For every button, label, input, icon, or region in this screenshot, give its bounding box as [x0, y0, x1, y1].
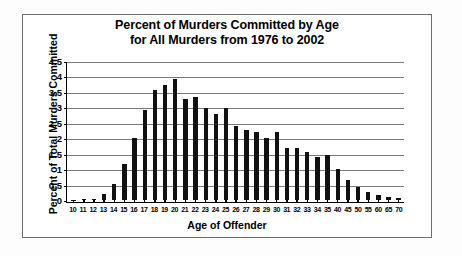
x-axis-tick-mark — [134, 200, 135, 203]
bar — [163, 85, 167, 200]
x-axis-title: Age of Offender — [22, 219, 432, 231]
bar — [254, 132, 258, 201]
bar-column — [353, 62, 363, 200]
x-axis-tick-label: 21 — [180, 206, 190, 213]
x-axis-tick-label: 10 — [68, 206, 78, 213]
bar-column — [79, 62, 89, 200]
bar — [153, 90, 157, 201]
bar — [224, 108, 228, 201]
x-axis-tick-label: 25 — [220, 206, 230, 213]
bar — [346, 180, 350, 200]
bar-column — [302, 62, 312, 200]
x-axis-tick-mark — [246, 200, 247, 203]
x-axis-tick-mark — [347, 200, 348, 203]
x-axis-tick-mark — [235, 200, 236, 203]
y-axis-tick-mark — [64, 170, 67, 171]
x-axis-tick-mark — [175, 200, 176, 203]
bar-column — [150, 62, 160, 200]
bar — [244, 130, 248, 200]
x-axis-tick-label: 60 — [373, 206, 383, 213]
x-axis-tick-mark — [205, 200, 206, 203]
bar — [264, 138, 268, 201]
bar-column — [69, 62, 79, 200]
x-axis-tick-label: 20 — [169, 206, 179, 213]
x-axis-tick-mark — [256, 200, 257, 203]
bar-column — [272, 62, 282, 200]
bar-column — [140, 62, 150, 200]
bar-column — [211, 62, 221, 200]
bar-column — [221, 62, 231, 200]
bar — [173, 79, 177, 201]
chart-title: Percent of Murders Committed by Age for … — [22, 18, 432, 48]
y-axis-tick-mark — [64, 186, 67, 187]
bar-column — [262, 62, 272, 200]
bar-column — [282, 62, 292, 200]
x-axis-tick-mark — [144, 200, 145, 203]
x-axis-tick-mark — [114, 200, 115, 203]
x-axis-tick-label: 18 — [149, 206, 159, 213]
bar — [214, 114, 218, 201]
bar — [305, 152, 309, 200]
x-axis-tick-label: 32 — [292, 206, 302, 213]
bar-column — [160, 62, 170, 200]
x-axis-tick-label: 23 — [200, 206, 210, 213]
x-axis-tick-label: 13 — [98, 206, 108, 213]
bar-column — [363, 62, 373, 200]
x-axis-tick-label: 12 — [88, 206, 98, 213]
y-axis-tick-mark — [64, 77, 67, 78]
x-axis-tick-mark — [327, 200, 328, 203]
bar — [285, 148, 289, 200]
bar-column — [333, 62, 343, 200]
x-axis-tick-mark — [276, 200, 277, 203]
x-axis-tick-label: 31 — [282, 206, 292, 213]
x-axis-tick-label: 26 — [231, 206, 241, 213]
x-axis-tick-mark — [154, 200, 155, 203]
x-axis-tick-mark — [225, 200, 226, 203]
bar — [356, 187, 360, 201]
x-axis-tick-mark — [357, 200, 358, 203]
x-axis-tick-mark — [307, 200, 308, 203]
bar — [234, 126, 238, 200]
x-axis-tick-label: 70 — [394, 206, 404, 213]
bar — [295, 148, 299, 200]
x-axis-tick-label: 17 — [139, 206, 149, 213]
x-axis-tick-mark — [317, 200, 318, 203]
bar-column — [343, 62, 353, 200]
x-axis-tick-mark — [185, 200, 186, 203]
bar — [336, 169, 340, 201]
bar — [204, 108, 208, 200]
bar — [132, 138, 136, 201]
x-axis-tick-mark — [286, 200, 287, 203]
y-axis-tick-mark — [64, 155, 67, 156]
x-axis-tick-label: 19 — [159, 206, 169, 213]
x-axis-tick-label: 22 — [190, 206, 200, 213]
bar — [193, 97, 197, 200]
x-axis-tick-label: 35 — [322, 206, 332, 213]
bar-column — [292, 62, 302, 200]
bar-column — [241, 62, 251, 200]
bar — [183, 99, 187, 200]
x-axis-tick-mark — [124, 200, 125, 203]
x-axis-tick-mark — [83, 200, 84, 203]
x-axis-tick-label: 24 — [210, 206, 220, 213]
x-axis-tick-label: 29 — [261, 206, 271, 213]
bar-column — [251, 62, 261, 200]
bar-column — [99, 62, 109, 200]
x-axis-tick-label: 16 — [129, 206, 139, 213]
bar — [366, 192, 370, 200]
bar-column — [373, 62, 383, 200]
bar-column — [119, 62, 129, 200]
x-axis-tick-label: 27 — [241, 206, 251, 213]
bar-column — [170, 62, 180, 200]
bar — [112, 184, 116, 200]
bar-column — [394, 62, 404, 200]
x-axis-tick-label: 55 — [363, 206, 373, 213]
chart-title-line-2: for All Murders from 1976 to 2002 — [22, 33, 432, 48]
chart-page: Percent of Murders Committed by Age for … — [0, 0, 462, 256]
x-axis-tick-mark — [378, 200, 379, 203]
y-axis-tick-mark — [64, 201, 67, 202]
x-axis-tick-mark — [266, 200, 267, 203]
x-axis-tick-mark — [195, 200, 196, 203]
x-axis-tick-label: 33 — [302, 206, 312, 213]
bar-column — [383, 62, 393, 200]
